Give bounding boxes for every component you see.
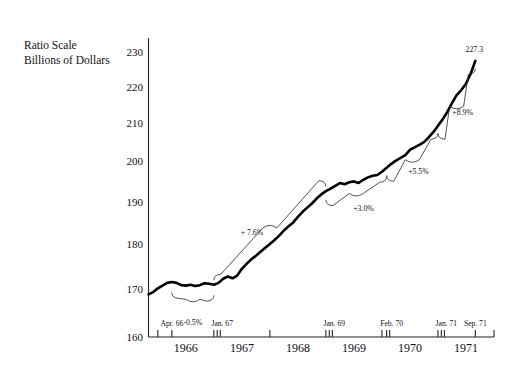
growth-brace-1 (214, 181, 326, 280)
y-tick-190: 190 (127, 196, 144, 208)
growth-brace-4 (438, 69, 475, 139)
chart-figure: Ratio Scale Billions of Dollars 16017018… (0, 0, 514, 369)
y-tick-170: 170 (127, 283, 144, 295)
year-label-1970: 1970 (398, 341, 422, 355)
growth-rate-label-3: +5.5% (408, 167, 429, 176)
date-tick-label-2: Jan. 69 (324, 319, 346, 328)
year-label-1968: 1968 (286, 341, 310, 355)
y-tick-160: 160 (127, 331, 144, 343)
x-axis-date-labels: Apr. 66Jan. 67Jan. 69Feb. 70Jan. 71Sep. … (160, 319, 486, 328)
x-axis-year-labels: 196619671968196919701971 (174, 341, 478, 355)
y-tick-210: 210 (127, 117, 144, 129)
endpoint-value-label: 227.3 (466, 45, 484, 54)
y-tick-230: 230 (127, 46, 144, 58)
date-tick-label-3: Feb. 70 (380, 319, 403, 328)
data-series-line (149, 61, 476, 295)
y-axis-tick-labels: 160170180190200210220230 (127, 46, 144, 343)
year-label-1971: 1971 (454, 341, 478, 355)
date-tick-label-5: Sep. 71 (464, 319, 487, 328)
date-tick-label-1: Jan. 67 (211, 319, 233, 328)
growth-rate-braces (172, 69, 475, 302)
growth-brace-0 (172, 293, 214, 302)
date-tick-label-0: Apr. 66 (160, 319, 183, 328)
growth-rate-label-4: +8.9% (452, 108, 473, 117)
growth-rate-label-1: + 7.6% (241, 228, 264, 237)
y-tick-200: 200 (127, 155, 144, 167)
year-label-1967: 1967 (230, 341, 254, 355)
x-axis-tick-marks (158, 330, 494, 337)
chart-plot-area: 160170180190200210220230 Apr. 66Jan. 67J… (0, 0, 514, 369)
y-tick-180: 180 (127, 238, 144, 250)
growth-rate-label-2: +3.0% (353, 204, 374, 213)
y-tick-220: 220 (127, 81, 144, 93)
year-label-1966: 1966 (174, 341, 198, 355)
date-tick-label-4: Jan. 71 (436, 319, 458, 328)
year-label-1969: 1969 (342, 341, 366, 355)
growth-rate-label-0: -0.5% (183, 318, 202, 327)
